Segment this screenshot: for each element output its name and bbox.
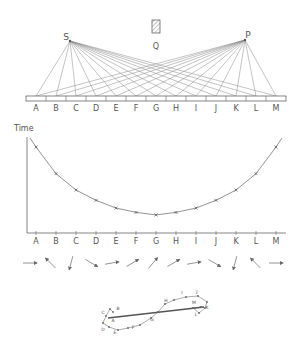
arrow-h <box>167 260 179 267</box>
arrow-k <box>233 256 237 270</box>
spiral-label-d: D <box>101 327 105 332</box>
x-tick-h: H <box>173 237 179 246</box>
spiral-label-k: K <box>206 305 210 310</box>
spiral-label-b: B <box>116 306 119 311</box>
x-tick-a: A <box>33 237 39 246</box>
mirror-label-c: C <box>73 104 79 113</box>
arrow-f <box>126 260 138 267</box>
spiral-label-g: G <box>150 317 154 322</box>
mirror-label-m: M <box>273 104 280 113</box>
arrow-d <box>85 260 97 267</box>
x-tick-k: K <box>233 237 239 246</box>
mirror-label-j: J <box>214 104 217 113</box>
spiral-label-i: I <box>181 290 182 295</box>
arrow-l <box>251 258 261 268</box>
point-s <box>69 40 71 42</box>
time-curve <box>30 138 282 215</box>
mirror-label-k: K <box>233 104 239 113</box>
x-tick-j: J <box>214 237 217 246</box>
mirror-label-l: L <box>254 104 259 113</box>
phasor-arrows <box>23 256 283 270</box>
x-tick-f: F <box>134 237 139 246</box>
label-q: Q <box>153 42 159 51</box>
mirror-labels: ABCDEFGHIJKLM <box>33 104 279 113</box>
mirror-label-a: A <box>33 104 39 113</box>
x-tick-g: G <box>153 237 159 246</box>
spiral-label-m: M <box>192 300 196 305</box>
mirror-label-i: I <box>195 104 197 113</box>
arrow-j <box>208 260 220 267</box>
time-markers <box>35 146 278 217</box>
spiral-label-c: C <box>101 310 104 315</box>
label-p: P <box>245 30 251 40</box>
mirror-label-e: E <box>113 104 118 113</box>
spiral-label-j: J <box>195 289 197 294</box>
mirror-strip <box>26 96 286 101</box>
arrow-e <box>105 262 119 264</box>
arrow-i <box>187 262 201 264</box>
arrow-c <box>69 256 73 270</box>
mirror-label-d: D <box>93 104 99 113</box>
x-tick-m: M <box>273 237 280 246</box>
spiral-label-l: L <box>195 312 198 317</box>
x-tick-c: C <box>73 237 79 246</box>
obstacle-q <box>152 20 160 33</box>
mirror-label-b: B <box>53 104 59 113</box>
x-tick-d: D <box>93 237 99 246</box>
point-p <box>244 39 246 41</box>
x-tick-l: L <box>254 237 259 246</box>
label-s: S <box>63 32 69 42</box>
graph-ylabel: Time <box>13 124 34 133</box>
spiral-label-h: H <box>164 298 167 303</box>
x-tick-b: B <box>53 237 59 246</box>
x-tick-e: E <box>113 237 118 246</box>
mirror-label-h: H <box>173 104 179 113</box>
x-tick-i: I <box>195 237 197 246</box>
arrow-g <box>149 258 158 269</box>
spiral-label-e: E <box>114 330 117 335</box>
mirror-label-g: G <box>153 104 159 113</box>
spiral-label-f: F <box>132 325 135 330</box>
arrow-b <box>46 258 56 268</box>
diagram-canvas: Q S P ABCDEFGHIJKLM Time ABCDEFGHIJKLM A… <box>0 0 300 354</box>
mirror-label-f: F <box>134 104 139 113</box>
spiral-label-a: A <box>111 318 115 323</box>
arrow-sum-spiral: ABCDEFGHIJKLM <box>101 289 209 335</box>
